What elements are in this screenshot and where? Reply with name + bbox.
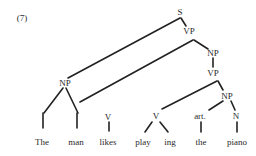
word-man: man	[68, 137, 84, 147]
syntax-tree-figure: (7) S VP NP VP NP V V NP art. N The man …	[0, 0, 256, 156]
tree-edge	[68, 18, 180, 78]
word-piano: piano	[227, 137, 247, 147]
node-noun: N	[233, 111, 240, 121]
node-v-play: V	[153, 111, 160, 121]
word-the: The	[35, 137, 49, 147]
tree-edge	[162, 81, 217, 109]
tree-edge	[194, 40, 208, 49]
tree-edge	[160, 122, 168, 132]
tree-edge	[145, 122, 152, 132]
tree-edge	[218, 81, 223, 90]
tree-edge	[66, 88, 78, 113]
node-s: S	[177, 7, 182, 17]
tree-edge	[209, 101, 223, 110]
word-the-lower: the	[196, 137, 207, 147]
figure-number: (7)	[17, 13, 28, 23]
node-v-likes: V	[105, 112, 112, 122]
node-np-piano: NP	[221, 91, 233, 101]
tree-branches	[0, 0, 256, 156]
word-likes: likes	[100, 137, 117, 147]
word-play: play	[135, 137, 151, 147]
node-article: art.	[194, 111, 206, 121]
tree-edge	[181, 18, 186, 26]
node-np-object: NP	[207, 48, 219, 58]
node-vp-top: VP	[183, 26, 195, 36]
word-ing: ing	[164, 137, 176, 147]
node-np-subject: NP	[59, 78, 71, 88]
node-vp-embedded: VP	[207, 68, 219, 78]
tree-edge	[80, 40, 193, 102]
tree-edge	[44, 88, 63, 113]
tree-edge	[231, 101, 235, 110]
